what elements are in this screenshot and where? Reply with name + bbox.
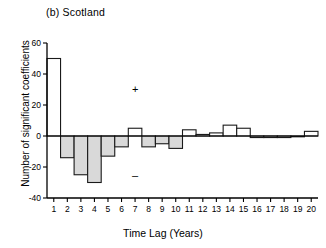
bar [61,136,75,158]
y-tick-label: -40 [8,193,41,203]
bar [169,136,183,148]
axes-layer [43,43,318,202]
bar [88,136,102,183]
y-tick-label: 0 [8,131,41,141]
bar [142,136,156,147]
figure-panel: (b) Scotland Number of significant coeff… [0,0,326,248]
bar [155,136,169,144]
x-tick-label: 20 [301,204,321,214]
bar [74,136,88,175]
bar [237,128,251,136]
bar [223,125,237,136]
plus-annotation: + [132,84,138,95]
minus-annotation: – [132,170,138,181]
bar [128,128,142,136]
y-tick-label: 20 [8,100,41,110]
y-tick-label: 40 [8,69,41,79]
bars-layer [47,59,318,183]
y-tick-label: 60 [8,38,41,48]
bar [101,136,115,156]
bar [304,131,318,136]
bar [115,136,129,147]
bar [183,130,197,136]
y-tick-label: -20 [8,162,41,172]
bar [47,59,61,137]
